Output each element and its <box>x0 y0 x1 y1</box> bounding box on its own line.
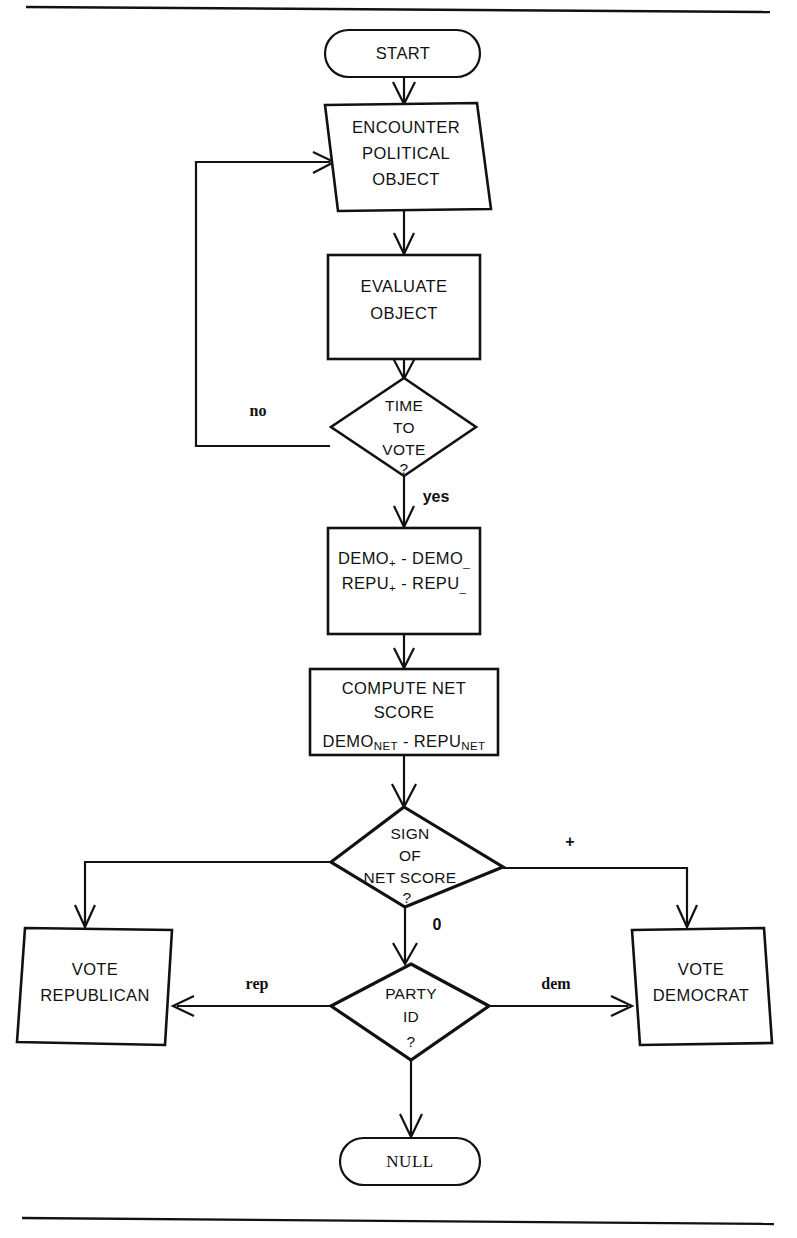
edge-compute-to-sign <box>392 755 416 807</box>
edge-start-to-encounter <box>393 77 415 104</box>
tally-row1-term-b: DEMO <box>412 549 463 567</box>
edge-encounter-to-evaluate <box>394 211 414 254</box>
node-vote-democrat[interactable]: VOTE DEMOCRAT <box>632 928 772 1045</box>
node-time-line-1: TIME <box>385 397 423 414</box>
edge-party-to-vote-republican <box>173 996 331 1016</box>
node-start-label: START <box>376 44 431 62</box>
bottom-rule <box>22 1218 774 1224</box>
tally-row2-sub-a: + <box>389 582 396 594</box>
edge-tally-to-compute <box>394 634 414 668</box>
node-tally-row-1: DEMO+ - DEMO_ <box>338 549 470 569</box>
node-party-id[interactable]: PARTY ID ? <box>331 964 489 1060</box>
compute-term-b: REPU <box>414 732 461 750</box>
node-time-line-3: VOTE <box>382 441 425 458</box>
edge-sign-to-party <box>393 906 417 964</box>
node-encounter-line-1: ENCOUNTER <box>352 118 460 136</box>
edge-label-dem: dem <box>541 975 571 992</box>
node-start[interactable]: START <box>325 30 480 77</box>
flowchart-canvas: no yes + 0 rep dem <box>0 0 797 1238</box>
node-sign-of-net-score[interactable]: SIGN OF NET SCORE ? <box>331 807 503 907</box>
tally-row2-term-b: REPU <box>412 574 459 592</box>
node-sign-line-2: OF <box>399 847 421 864</box>
node-compute-expression: DEMONET - REPUNET <box>323 732 486 752</box>
node-time-to-vote[interactable]: TIME TO VOTE ? <box>331 378 476 477</box>
edge-label-rep: rep <box>246 975 269 993</box>
node-evaluate-line-1: EVALUATE <box>361 277 448 295</box>
edge-sign-to-vote-republican <box>75 862 331 927</box>
node-time-line-2: TO <box>393 419 415 436</box>
tally-row1-sub-b: _ <box>462 557 470 569</box>
edge-label-no: no <box>250 402 267 419</box>
node-vote-democrat-line-1: VOTE <box>678 960 725 978</box>
edge-party-to-vote-democrat <box>489 996 632 1016</box>
node-sign-line-4: ? <box>403 889 412 906</box>
compute-sub-a: NET <box>374 740 398 752</box>
node-evaluate-line-2: OBJECT <box>370 304 438 322</box>
node-tally-row-2: REPU+ - REPU_ <box>342 574 467 594</box>
compute-term-a: DEMO <box>323 732 374 750</box>
node-encounter-political-object[interactable]: ENCOUNTER POLITICAL OBJECT <box>325 103 491 211</box>
tally-row2-sub-b: _ <box>459 582 467 594</box>
node-evaluate-object[interactable]: EVALUATE OBJECT <box>328 255 480 359</box>
edge-time-to-tally <box>394 476 414 527</box>
node-null[interactable]: NULL <box>340 1138 480 1185</box>
node-encounter-line-3: OBJECT <box>372 170 440 188</box>
node-vote-democrat-line-2: DEMOCRAT <box>653 986 749 1004</box>
edge-party-to-null <box>400 1060 422 1137</box>
node-encounter-line-2: POLITICAL <box>362 144 450 162</box>
node-time-line-4: ? <box>400 460 409 477</box>
edge-evaluate-to-time <box>393 358 415 379</box>
node-compute-line-2: SCORE <box>374 703 435 721</box>
node-party-line-2: ID <box>403 1008 419 1025</box>
node-compute-line-1: COMPUTE NET <box>342 679 466 697</box>
edge-label-plus: + <box>565 833 574 850</box>
edge-sign-to-vote-democrat <box>503 868 697 927</box>
node-null-label: NULL <box>386 1152 433 1171</box>
node-sign-line-3: NET SCORE <box>364 869 457 886</box>
node-vote-republican-line-2: REPUBLICAN <box>40 986 149 1004</box>
flowchart-page: no yes + 0 rep dem <box>0 0 797 1238</box>
compute-sub-b: NET <box>461 740 485 752</box>
node-party-line-1: PARTY <box>385 985 437 1002</box>
edge-label-yes: yes <box>423 488 450 505</box>
top-rule <box>26 7 770 12</box>
node-tally-scores[interactable]: DEMO+ - DEMO_ REPU+ - REPU_ <box>328 528 480 634</box>
node-compute-net-score[interactable]: COMPUTE NET SCORE DEMONET - REPUNET <box>310 669 498 755</box>
tally-row2-term-a: REPU <box>342 574 389 592</box>
edge-label-zero: 0 <box>433 916 442 933</box>
tally-row1-sub-a: + <box>389 557 396 569</box>
node-vote-republican[interactable]: VOTE REPUBLICAN <box>17 928 172 1045</box>
tally-row1-term-a: DEMO <box>338 549 389 567</box>
node-sign-line-1: SIGN <box>390 825 429 842</box>
node-vote-republican-line-1: VOTE <box>72 960 119 978</box>
node-party-line-3: ? <box>407 1033 416 1050</box>
